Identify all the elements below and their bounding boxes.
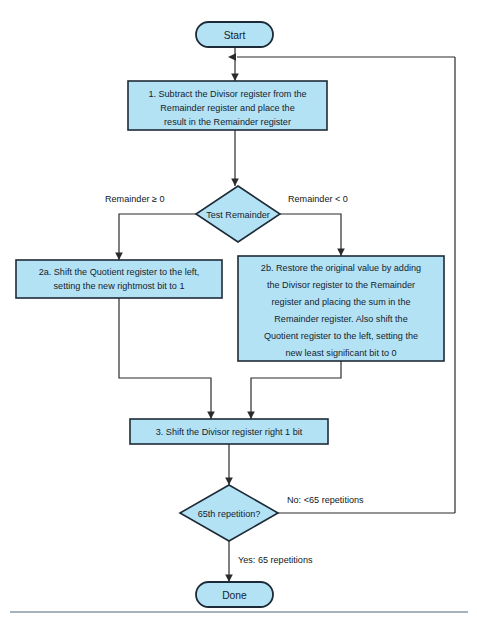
step-3-box[interactable]: 3. Shift the Divisor register right 1 bi…: [130, 419, 328, 444]
branch-label-remainder-gte-zero: Remainder ≥ 0: [105, 194, 165, 204]
start-terminator[interactable]: Start: [196, 22, 273, 47]
arrowhead-step3-left: [207, 412, 215, 420]
flowchart-figure: Start 1. Subtract the Divisor register f…: [0, 0, 477, 624]
arrowhead-step3-right: [247, 412, 255, 420]
flowchart-canvas: Start 1. Subtract the Divisor register f…: [0, 0, 477, 624]
connector-step2b-to-step3: [251, 361, 341, 419]
connector-test-left-to-step2a: [119, 214, 196, 260]
step-2b-line-6: new least significant bit to 0: [285, 348, 396, 358]
step-1-line-1: 1. Subtract the Divisor register from th…: [148, 89, 306, 99]
step-2b-line-2: the Divisor register to the Remainder: [267, 280, 415, 290]
arrowhead-done: [225, 575, 233, 583]
start-terminator-label: Start: [224, 30, 246, 41]
branch-label-no-repetitions: No: <65 repetitions: [287, 495, 364, 505]
arrowhead-step2b: [337, 249, 345, 257]
step-2a-line-2: setting the new rightmost bit to 1: [54, 281, 185, 291]
step-2b-line-3: register and placing the sum in the: [271, 297, 410, 307]
step-1-box[interactable]: 1. Subtract the Divisor register from th…: [128, 81, 327, 130]
repetition-check-label: 65th repetition?: [198, 509, 261, 519]
arrowhead-repetition: [225, 478, 233, 486]
branch-label-remainder-lt-zero: Remainder < 0: [288, 194, 348, 204]
repetition-check-decision[interactable]: 65th repetition?: [180, 485, 278, 541]
done-terminator[interactable]: Done: [196, 582, 273, 607]
test-remainder-decision[interactable]: Test Remainder: [196, 186, 280, 242]
step-3-line-1: 3. Shift the Divisor register right 1 bi…: [156, 427, 303, 437]
step-2a-line-1: 2a. Shift the Quotient register to the l…: [39, 267, 200, 277]
test-remainder-label: Test Remainder: [206, 210, 270, 220]
step-2a-box[interactable]: 2a. Shift the Quotient register to the l…: [16, 260, 222, 298]
branch-label-yes-repetitions: Yes: 65 repetitions: [238, 555, 313, 565]
done-terminator-label: Done: [222, 590, 247, 601]
connector-step2a-to-step3: [119, 298, 211, 419]
step-2b-line-1: 2b. Restore the original value by adding: [261, 263, 421, 273]
arrowhead-test-remainder: [231, 179, 239, 187]
arrowhead-loopback: [228, 53, 236, 60]
connector-test-right-to-step2b: [280, 214, 341, 256]
step-2b-box[interactable]: 2b. Restore the original value by adding…: [238, 256, 444, 361]
step-2b-line-5: Quotient register to the left, setting t…: [264, 331, 418, 341]
step-1-line-2: Remainder register and place the: [160, 103, 294, 113]
step-1-line-3: result in the Remainder register: [164, 117, 291, 127]
step-2b-line-4: Remainder register. Also shift the: [274, 314, 407, 324]
arrowhead-step1: [231, 74, 239, 82]
arrowhead-step2a: [115, 253, 123, 261]
step-2a-shape: [16, 260, 222, 298]
